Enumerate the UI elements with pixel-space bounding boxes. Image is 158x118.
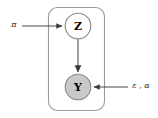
graphical-model-diagram: Z Y π ε , α — [0, 0, 158, 118]
diagram-canvas: Z Y π ε , α — [0, 0, 158, 118]
node-z-label: Z — [74, 20, 82, 33]
parameter-pi-label: π — [10, 20, 17, 29]
node-y-label: Y — [73, 81, 82, 94]
parameter-eps-alpha-label: ε , α — [132, 81, 150, 90]
